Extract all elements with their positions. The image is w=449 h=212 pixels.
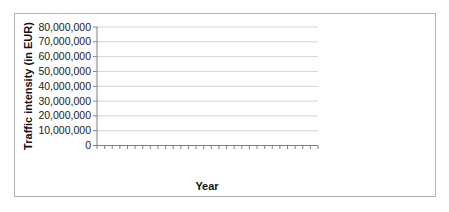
y-tick-label: 0 [85, 139, 91, 151]
x-axis-title: Year [195, 180, 219, 192]
y-tick-label: 20,000,000 [38, 109, 91, 121]
y-axis-title: Traffic intensity (in EUR) [22, 22, 34, 150]
y-tick-label: 50,000,000 [38, 65, 91, 77]
y-tick-label: 10,000,000 [38, 124, 91, 136]
y-tick-label: 70,000,000 [38, 35, 91, 47]
y-tick-label: 40,000,000 [38, 80, 91, 92]
y-tick-label: 80,000,000 [38, 21, 91, 33]
y-tick-label: 30,000,000 [38, 95, 91, 107]
line-chart: 010,000,00020,000,00030,000,00040,000,00… [15, 14, 435, 196]
chart-frame: 010,000,00020,000,00030,000,00040,000,00… [14, 13, 436, 197]
y-tick-label: 60,000,000 [38, 50, 91, 62]
